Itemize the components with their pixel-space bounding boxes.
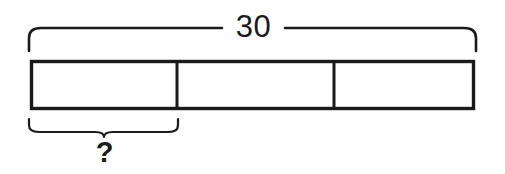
- total-label: 30: [1, 11, 505, 42]
- unknown-brace-path: [29, 119, 178, 137]
- unknown-brace: [29, 119, 178, 137]
- bar-outline: [32, 62, 474, 109]
- bar-model-diagram: 30 ?: [0, 0, 505, 174]
- unknown-label: ?: [0, 138, 209, 167]
